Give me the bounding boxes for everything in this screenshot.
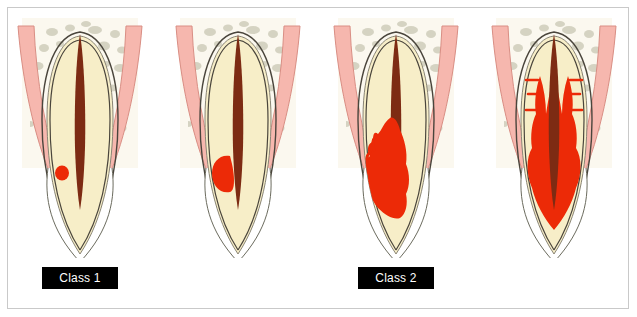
- figure-canvas: Class 1: [0, 0, 637, 317]
- panel-class-2: Class 2: [158, 0, 318, 317]
- tooth-diagram-class-1: [0, 18, 160, 258]
- panel-class-3: Class 3: [316, 0, 476, 317]
- resorption-lesion: [55, 166, 69, 181]
- tooth-diagram-class-3: [316, 18, 476, 258]
- label-text-class-1: Class 1: [59, 271, 100, 285]
- tooth-diagram-class-2: [158, 18, 318, 258]
- panel-class-1: Class 1: [0, 0, 160, 317]
- label-class-1: Class 1: [42, 267, 118, 289]
- panel-class-4: Class 4: [474, 0, 634, 317]
- tooth-diagram-class-4: [474, 18, 634, 258]
